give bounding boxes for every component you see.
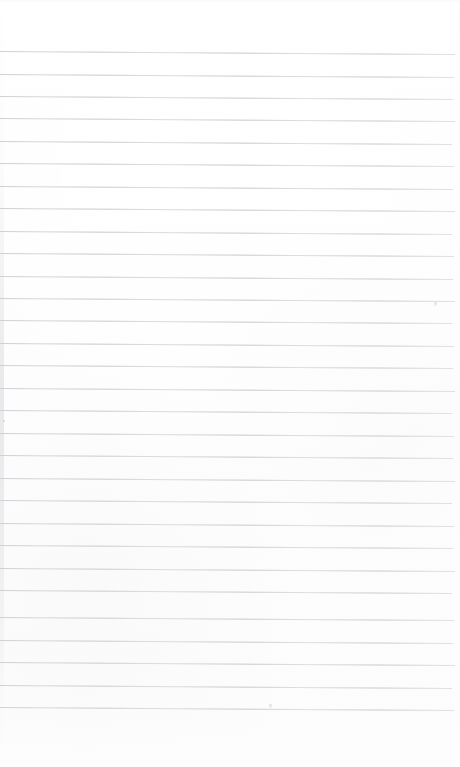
bottom-margin bbox=[0, 709, 460, 767]
writing-area[interactable] bbox=[0, 51, 455, 711]
notebook-page bbox=[0, 0, 460, 767]
